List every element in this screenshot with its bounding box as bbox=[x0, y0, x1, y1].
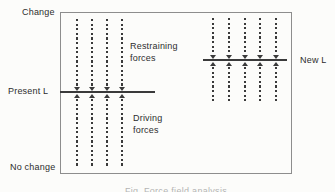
new-level-label: New L bbox=[300, 55, 327, 66]
force-arrowhead-up-icon bbox=[89, 94, 95, 98]
force-arrowhead-down-icon bbox=[273, 55, 279, 59]
restraining-driving-forces-dashed-line-top bbox=[121, 19, 123, 87]
force-field-diagram: Change Present L No change New L Restrai… bbox=[0, 0, 335, 192]
present-level-label: Present L bbox=[8, 86, 56, 97]
force-arrowhead-down-icon bbox=[74, 87, 80, 91]
new-level-forces-dashed-line-top bbox=[228, 18, 230, 55]
force-arrowhead-down-icon bbox=[242, 55, 248, 59]
driving-forces-label-line1: Driving bbox=[133, 112, 162, 124]
restraining-driving-forces-dashed-line-bottom bbox=[76, 99, 78, 169]
change-label: Change bbox=[22, 7, 55, 18]
new-level-forces-dashed-line-bottom bbox=[228, 67, 230, 104]
force-arrowhead-up-icon bbox=[74, 94, 80, 98]
force-arrowhead-up-icon bbox=[226, 62, 232, 66]
restraining-driving-forces-dashed-line-top bbox=[76, 19, 78, 87]
restraining-driving-forces-dashed-line-top bbox=[91, 19, 93, 87]
figure-caption-clipped: Fig. Force field analysis bbox=[60, 185, 292, 192]
force-arrowhead-down-icon bbox=[119, 87, 125, 91]
restraining-driving-forces-dashed-line-bottom bbox=[121, 99, 123, 169]
no-change-label: No change bbox=[10, 162, 55, 173]
force-arrowhead-up-icon bbox=[242, 62, 248, 66]
new-level-forces-dashed-line-bottom bbox=[244, 67, 246, 104]
driving-forces-label-line2: forces bbox=[133, 124, 162, 136]
new-level-forces-dashed-line-bottom bbox=[275, 67, 277, 104]
force-arrowhead-up-icon bbox=[210, 62, 216, 66]
force-arrowhead-up-icon bbox=[104, 94, 110, 98]
force-arrowhead-down-icon bbox=[226, 55, 232, 59]
restraining-driving-forces-dashed-line-top bbox=[106, 19, 108, 87]
new-level-line bbox=[203, 59, 287, 61]
force-arrowhead-down-icon bbox=[210, 55, 216, 59]
new-level-forces-dashed-line-top bbox=[259, 18, 261, 55]
new-level-forces-dashed-line-bottom bbox=[212, 67, 214, 104]
force-arrowhead-up-icon bbox=[119, 94, 125, 98]
force-arrowhead-up-icon bbox=[273, 62, 279, 66]
present-level-line bbox=[60, 91, 155, 93]
force-arrowhead-up-icon bbox=[257, 62, 263, 66]
new-level-forces-dashed-line-top bbox=[244, 18, 246, 55]
new-level-forces-dashed-line-top bbox=[275, 18, 277, 55]
force-arrowhead-down-icon bbox=[257, 55, 263, 59]
restraining-forces-label-line2: forces bbox=[130, 52, 178, 64]
restraining-forces-label: Restraining forces bbox=[130, 40, 178, 64]
driving-forces-label: Driving forces bbox=[133, 112, 162, 136]
new-level-forces-dashed-line-top bbox=[212, 18, 214, 55]
restraining-driving-forces-dashed-line-bottom bbox=[91, 99, 93, 169]
restraining-driving-forces-dashed-line-bottom bbox=[106, 99, 108, 169]
new-level-forces-dashed-line-bottom bbox=[259, 67, 261, 104]
force-arrowhead-down-icon bbox=[89, 87, 95, 91]
restraining-forces-label-line1: Restraining bbox=[130, 40, 178, 52]
force-arrowhead-down-icon bbox=[104, 87, 110, 91]
